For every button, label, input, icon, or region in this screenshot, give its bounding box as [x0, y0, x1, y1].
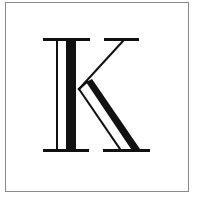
- leg-top-connector: [79, 82, 87, 89]
- top-right-serif: [104, 38, 139, 41]
- stem-thick-bar: [66, 41, 76, 149]
- arm-hairline: [79, 41, 123, 89]
- stem-hairline: [56, 41, 58, 149]
- bottom-right-serif: [103, 149, 150, 152]
- bottom-left-serif: [43, 149, 89, 152]
- letter-k-glyph: [0, 0, 201, 199]
- top-left-serif: [43, 38, 90, 41]
